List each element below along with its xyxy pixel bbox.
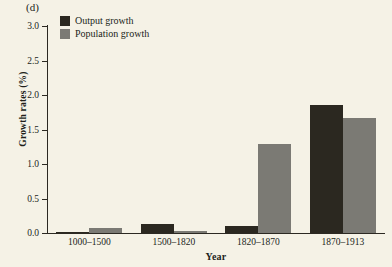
- y-axis-tick-label: 0.0: [9, 229, 39, 239]
- y-axis-tick-label: 3.0: [9, 22, 39, 32]
- y-axis-tick-label: 2.5: [9, 57, 39, 67]
- x-axis-title: Year: [47, 251, 385, 262]
- bar-output-growth: [225, 226, 258, 233]
- figure-panel-d: (d) Growth rates (%) 3.02.52.01.51.00.50…: [0, 0, 392, 267]
- panel-label: (d): [26, 1, 39, 13]
- y-axis-tick-label: 1.0: [9, 160, 39, 170]
- bar-population-growth: [343, 118, 376, 233]
- bar-population-growth: [89, 228, 122, 233]
- x-axis-line: [47, 233, 385, 234]
- y-axis-tick-label: 2.0: [9, 91, 39, 101]
- x-axis-tick-label: 1820–1870: [216, 237, 301, 247]
- bar-output-growth: [56, 232, 89, 233]
- legend-label-output-growth: Output growth: [75, 16, 134, 26]
- bar-output-growth: [310, 105, 343, 233]
- y-axis-tick-label: 0.5: [9, 195, 39, 205]
- y-axis-tick-label: 1.5: [9, 126, 39, 136]
- bar-group: [216, 26, 301, 233]
- bar-population-growth: [258, 144, 291, 233]
- x-axis-tick-label: 1500–1820: [132, 237, 217, 247]
- legend-swatch-output-growth: [60, 16, 70, 26]
- x-axis-tick-label: 1870–1913: [301, 237, 386, 247]
- bar-group: [47, 26, 132, 233]
- bar-population-growth: [174, 231, 207, 233]
- bar-group: [132, 26, 217, 233]
- bar-group: [301, 26, 386, 233]
- x-axis-tick-label: 1000–1500: [47, 237, 132, 247]
- plot-area: [47, 26, 384, 233]
- y-axis-tick: [42, 233, 47, 234]
- bar-output-growth: [141, 224, 174, 233]
